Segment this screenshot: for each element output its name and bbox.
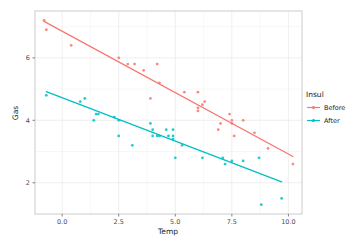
data-point-after — [151, 128, 154, 131]
data-point-after — [165, 128, 168, 131]
data-point-before — [253, 131, 256, 134]
data-point-after — [172, 128, 175, 131]
data-point-after — [167, 135, 170, 138]
data-point-before — [45, 28, 48, 31]
x-tick-label: 2.5 — [114, 218, 124, 226]
data-point-before — [228, 113, 231, 116]
data-point-after — [97, 113, 100, 116]
data-point-before — [292, 163, 295, 166]
legend-label-before: Before — [324, 104, 345, 112]
legend-entry-after: After — [306, 116, 345, 125]
data-point-after — [242, 160, 245, 163]
data-point-before — [219, 122, 222, 125]
data-point-after — [224, 163, 227, 166]
x-tick-label: 0.0 — [57, 218, 67, 226]
data-point-before — [201, 103, 204, 106]
legend: Insul Before After — [306, 90, 345, 125]
data-point-before — [267, 147, 270, 150]
data-point-before — [142, 69, 145, 72]
data-point-before — [126, 63, 129, 66]
data-point-before — [197, 106, 200, 109]
data-point-after — [258, 156, 261, 159]
data-point-after — [45, 94, 48, 97]
legend-key-before-icon — [306, 103, 321, 112]
data-point-before — [242, 119, 245, 122]
x-tick-label: 10.0 — [281, 218, 295, 226]
y-axis-title: Gas — [11, 106, 20, 120]
data-point-after — [92, 119, 95, 122]
data-point-before — [156, 63, 159, 66]
data-point-after — [280, 197, 283, 200]
data-point-before — [70, 44, 73, 47]
data-point-after — [151, 135, 154, 138]
data-point-before — [230, 119, 233, 122]
x-axis-title: Temp — [158, 227, 178, 236]
x-tick-label: 5.0 — [170, 218, 180, 226]
data-point-before — [233, 135, 236, 138]
legend-entry-before: Before — [306, 103, 345, 112]
data-point-before — [197, 110, 200, 113]
data-point-after — [79, 100, 82, 103]
y-tick-label: 6 — [26, 54, 30, 62]
data-point-before — [217, 128, 220, 131]
data-point-after — [131, 144, 134, 147]
data-point-before — [197, 91, 200, 94]
data-point-before — [183, 91, 186, 94]
legend-label-after: After — [324, 117, 340, 125]
data-point-after — [201, 156, 204, 159]
legend-key-after-icon — [306, 116, 321, 125]
data-point-after — [83, 97, 86, 100]
data-point-after — [260, 203, 263, 206]
data-point-after — [174, 156, 177, 159]
data-point-before — [203, 100, 206, 103]
data-point-before — [133, 63, 136, 66]
data-point-after — [117, 135, 120, 138]
y-tick-label: 2 — [26, 179, 30, 187]
panel-background — [35, 11, 302, 214]
data-point-before — [117, 56, 120, 59]
x-tick-label: 7.5 — [227, 218, 237, 226]
data-point-after — [172, 135, 175, 138]
data-point-before — [149, 97, 152, 100]
y-tick-label: 4 — [26, 117, 30, 125]
plot-figure: 0.02.55.07.510.0246 Gas Temp Insul Befor… — [0, 0, 359, 249]
data-point-after — [149, 122, 152, 125]
legend-title: Insul — [306, 90, 345, 99]
